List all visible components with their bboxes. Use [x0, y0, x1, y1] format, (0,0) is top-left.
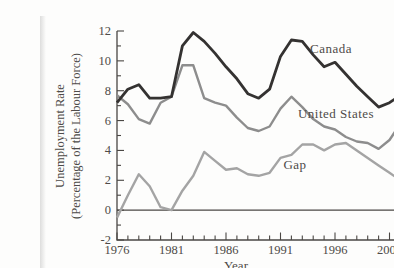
y-tick-label: 0 — [105, 203, 111, 217]
x-tick-label: 1986 — [214, 243, 239, 257]
y-tick-label: 8 — [105, 84, 111, 98]
x-tick-label: 1996 — [323, 243, 348, 257]
y-tick-label: 12 — [99, 24, 112, 38]
series-label-canada: Canada — [310, 41, 352, 56]
y-tick-label: 2 — [105, 173, 111, 187]
y-axis-title-line2: (Percentage of the Labour Force) — [69, 53, 83, 219]
axis-frame — [117, 31, 394, 240]
canada-line — [117, 33, 394, 108]
x-tick-label: 2001 — [377, 243, 394, 257]
y-tick-label: 4 — [105, 143, 112, 157]
unemployment-rate-figure: -2024681012197619811986199119962001GapUn… — [40, 16, 394, 268]
series-label-gap: Gap — [283, 157, 306, 172]
series-label-united-states: United States — [298, 106, 374, 121]
y-axis-title-line1: Unemployment Rate — [53, 84, 67, 188]
x-tick-label: 1981 — [159, 243, 184, 257]
chart-svg: -2024681012197619811986199119962001GapUn… — [40, 16, 394, 268]
x-axis-title: Year — [224, 258, 249, 268]
y-tick-label: 6 — [105, 114, 111, 128]
x-tick-label: 1991 — [268, 243, 293, 257]
x-tick-label: 1976 — [105, 243, 130, 257]
gap-line — [117, 143, 394, 218]
y-tick-label: 10 — [99, 54, 112, 68]
